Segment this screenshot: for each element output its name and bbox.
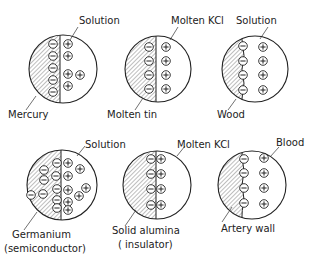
minus-ion-icon — [145, 57, 154, 66]
label-semiconductor: (semiconductor) — [4, 243, 86, 254]
plus-ion-icon — [157, 201, 166, 210]
label-mercury: Mercury — [8, 109, 49, 120]
panel-germanium-solution: Solution Germanium (semiconductor) — [4, 139, 126, 254]
label-solution: Solution — [85, 139, 126, 150]
minus-ion-icon — [147, 201, 156, 210]
positive-ions — [260, 154, 269, 209]
panel-wood-solution: Solution Wood — [215, 15, 288, 120]
minus-ion-icon — [40, 176, 49, 185]
minus-ion-icon — [49, 52, 58, 61]
label-solution: Solution — [79, 15, 120, 26]
plus-ion-icon — [157, 155, 166, 164]
minus-ion-icon — [39, 190, 48, 199]
plus-ion-icon — [259, 43, 268, 52]
plus-ion-icon — [64, 206, 73, 215]
plus-ion-icon — [162, 57, 171, 66]
plus-ion-icon — [64, 198, 73, 207]
plus-ion-icon — [162, 85, 171, 94]
plus-ion-icon — [76, 71, 85, 80]
plus-ion-icon — [64, 52, 73, 61]
positive-ions — [162, 43, 171, 94]
positive-ions — [64, 159, 91, 215]
positive-ions — [157, 155, 166, 210]
plus-ion-icon — [260, 154, 269, 163]
label-molten-kcl: Molten KCl — [177, 139, 230, 150]
minus-ion-icon — [27, 191, 36, 200]
plus-ion-icon — [260, 169, 269, 178]
minus-ion-icon — [49, 64, 58, 73]
leader-line — [170, 27, 178, 40]
leader-line — [77, 146, 85, 156]
panel-molten-tin-kcl: Molten KCl Molten tin — [107, 15, 224, 120]
minus-ion-icon — [147, 185, 156, 194]
minus-ion-icon — [53, 204, 62, 213]
plus-ion-icon — [157, 170, 166, 179]
minus-ion-icon — [145, 85, 154, 94]
minus-ion-icon — [239, 57, 248, 66]
minus-ion-icon — [145, 71, 154, 80]
minus-ion-icon — [147, 170, 156, 179]
minus-ion-icon — [49, 88, 58, 97]
minus-ion-icon — [49, 40, 58, 49]
minus-ion-icon — [53, 196, 62, 205]
positive-ions — [259, 43, 268, 95]
panel-artery-blood: Blood Artery wall — [210, 137, 304, 234]
panel-mercury-solution: Solution Mercury — [8, 15, 120, 120]
plus-ion-icon — [259, 57, 268, 66]
minus-ion-icon — [240, 199, 249, 208]
minus-ion-icon — [40, 166, 49, 175]
plus-ion-icon — [157, 185, 166, 194]
plus-ion-icon — [64, 186, 73, 195]
plus-ion-icon — [64, 82, 73, 91]
label-solid-alumina: Solid alumina — [112, 225, 180, 236]
plus-ion-icon — [260, 200, 269, 209]
minus-ion-icon — [147, 155, 156, 164]
minus-ion-icon — [53, 159, 62, 168]
plus-ion-icon — [75, 192, 84, 201]
minus-ion-icon — [240, 155, 249, 164]
leader-line — [222, 207, 232, 222]
label-germanium: Germanium — [12, 229, 71, 240]
minus-ion-icon — [53, 185, 62, 194]
minus-ion-icon — [52, 172, 61, 181]
label-molten-kcl: Molten KCl — [171, 15, 224, 26]
positive-ions — [64, 40, 85, 91]
label-insulator: ( insulator) — [118, 239, 173, 250]
minus-ion-icon — [145, 43, 154, 52]
plus-ion-icon — [64, 159, 73, 168]
plus-ion-icon — [260, 184, 269, 193]
label-solution: Solution — [236, 15, 277, 26]
minus-ion-icon — [239, 42, 248, 51]
leader-line — [26, 96, 36, 110]
leader-line — [270, 147, 279, 157]
leader-line — [125, 210, 136, 226]
minus-ion-icon — [240, 169, 249, 178]
panel-alumina-kcl: Molten KCl Solid alumina ( insulator) — [112, 139, 230, 250]
minus-ion-icon — [240, 184, 249, 193]
hatched-phase — [210, 145, 244, 230]
label-molten-tin: Molten tin — [107, 109, 157, 120]
label-blood: Blood — [276, 137, 304, 148]
minus-ion-icon — [49, 76, 58, 85]
plus-ion-icon — [162, 43, 171, 52]
double-layer-diagram: Solution Mercury Molten KCl Molten tin S… — [0, 0, 309, 257]
label-wood: Wood — [217, 109, 245, 120]
leader-line — [24, 212, 37, 230]
plus-ion-icon — [82, 184, 91, 193]
minus-ion-icon — [239, 86, 248, 95]
plus-ion-icon — [259, 71, 268, 80]
minus-ion-icon — [239, 71, 248, 80]
plus-ion-icon — [259, 86, 268, 95]
plus-ion-icon — [64, 172, 73, 181]
plus-ion-icon — [162, 71, 171, 80]
label-artery-wall: Artery wall — [221, 223, 275, 234]
plus-ion-icon — [64, 70, 73, 79]
plus-ion-icon — [64, 40, 73, 49]
plus-ion-icon — [76, 165, 85, 174]
